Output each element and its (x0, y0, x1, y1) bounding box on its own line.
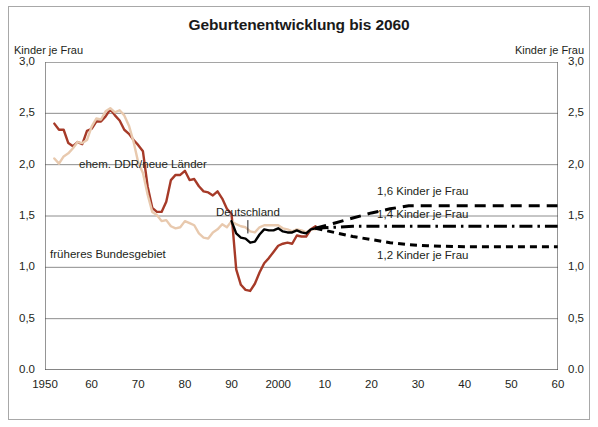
y-tick-label-left: 0,5 (3, 313, 35, 325)
y-tick-label-right: 3,0 (568, 56, 598, 68)
annotation-frueheres-bundesgebiet: früheres Bundesgebiet (50, 249, 166, 261)
annotation-variante-1-4: 1,4 Kinder je Frau (377, 209, 468, 221)
x-tick-label: 30 (393, 379, 443, 391)
series-line-ddr (54, 109, 315, 291)
annotation-ehem-ddr-neue-laender: ehem. DDR/neue Länder (79, 159, 207, 171)
x-tick-label: 60 (533, 379, 583, 391)
y-tick-label-right: 2,0 (568, 159, 598, 171)
chart-title: Geburtenentwicklung bis 2060 (0, 16, 598, 34)
chart-plot-svg (45, 62, 558, 370)
annotation-deutschland: Deutschland (216, 207, 280, 219)
y-tick-label-right: 1,0 (568, 261, 598, 273)
series-line-projection-1-2 (315, 228, 558, 246)
x-tick-label: 2000 (253, 379, 303, 391)
x-tick-label: 80 (160, 379, 210, 391)
y-tick-label-right: 1,5 (568, 210, 598, 222)
x-tick-label: 90 (207, 379, 257, 391)
x-tick-label: 1950 (20, 379, 70, 391)
annotation-variante-1-6: 1,6 Kinder je Frau (377, 186, 468, 198)
x-tick-label: 40 (440, 379, 490, 391)
y-tick-label-right: 2,5 (568, 107, 598, 119)
y-tick-label-left: 1,5 (3, 210, 35, 222)
x-tick-label: 50 (486, 379, 536, 391)
y-tick-label-left: 2,5 (3, 107, 35, 119)
x-tick-label: 20 (346, 379, 396, 391)
gridlines (45, 62, 558, 370)
y-tick-label-left: 1,0 (3, 261, 35, 273)
x-tick-label: 60 (67, 379, 117, 391)
y-tick-label-left: 0.0 (3, 364, 35, 376)
x-tick-label: 70 (113, 379, 163, 391)
y-tick-label-right: 0,5 (568, 313, 598, 325)
figure-container: Geburtenentwicklung bis 2060 Kinder je F… (0, 0, 598, 427)
y-tick-label-left: 3,0 (3, 56, 35, 68)
x-tick-label: 10 (300, 379, 350, 391)
y-tick-label-left: 2,0 (3, 159, 35, 171)
data-series-group (54, 108, 558, 291)
series-line-projection-1-4 (315, 226, 558, 228)
y-tick-label-right: 0.0 (568, 364, 598, 376)
plot-area: 0.00,51,01,52,02,53,0 0.00,51,01,52,02,5… (45, 62, 558, 370)
annotation-variante-1-2: 1,2 Kinder je Frau (377, 250, 468, 262)
